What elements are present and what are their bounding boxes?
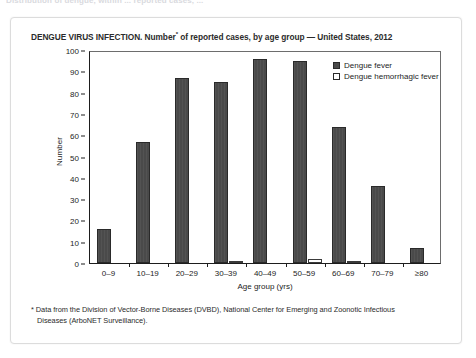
y-axis-tick-label: 60	[70, 132, 79, 141]
x-axis-tick-label: 70–79	[371, 269, 393, 278]
bar-group	[246, 52, 285, 263]
bar-dengue-fever	[253, 59, 267, 263]
y-axis-tick-mark	[81, 114, 85, 115]
bar-dengue-fever	[371, 186, 385, 263]
x-axis-tick-label: 30–39	[215, 269, 237, 278]
legend-swatch-dengue-hemorrhagic-fever-icon	[333, 73, 340, 80]
bar-group	[364, 52, 403, 263]
x-axis-tick-label: 50–59	[293, 269, 315, 278]
y-axis-tick-label: 30	[70, 196, 79, 205]
bar-dengue-fever	[214, 82, 228, 263]
bar-group	[325, 52, 364, 263]
bar-dengue-fever	[410, 248, 424, 263]
cut-off-header-text: Distribution of dengue, within ... repor…	[6, 0, 326, 8]
y-axis-tick-mark	[81, 136, 85, 137]
x-axis-tick-mark	[364, 263, 365, 267]
plot-area: Number 1009080706050403020100 0–910–1920…	[31, 51, 446, 291]
y-axis-tick-mark	[81, 157, 85, 158]
x-axis-tick-label: ≥80	[415, 269, 428, 278]
y-axis-tick-mark	[81, 178, 85, 179]
y-axis-tick-label: 40	[70, 174, 79, 183]
bars-layer	[90, 52, 440, 263]
y-axis-tick-mark	[81, 242, 85, 243]
legend-label-dengue-hemorrhagic-fever: Dengue hemorrhagic fever	[344, 72, 439, 81]
y-axis-ticks: 1009080706050403020100	[55, 51, 85, 264]
x-axis-tick-mark	[286, 263, 287, 267]
legend-label-dengue-fever: Dengue fever	[344, 61, 392, 70]
bar-group	[403, 52, 442, 263]
legend-swatch-dengue-fever-icon	[333, 62, 340, 69]
x-axis-title: Age group (yrs)	[89, 282, 441, 291]
bar-dengue-fever	[97, 229, 111, 263]
y-axis-tick-mark	[81, 93, 85, 94]
chart-title-suffix: of reported cases, by age group — United…	[178, 32, 392, 42]
bar-group	[207, 52, 246, 263]
x-axis-tick-mark	[168, 263, 169, 267]
y-axis-tick-label: 20	[70, 217, 79, 226]
bar-dengue-fever	[332, 127, 346, 263]
bar-dengue-fever	[175, 78, 189, 263]
y-axis-tick-mark	[81, 221, 85, 222]
y-axis-tick-label: 90	[70, 68, 79, 77]
y-axis-tick-label: 80	[70, 89, 79, 98]
chart-title-prefix: DENGUE VIRUS INFECTION. Number	[31, 32, 176, 42]
x-axis-tick-mark	[246, 263, 247, 267]
y-axis-tick-mark	[81, 72, 85, 73]
bar-group	[286, 52, 325, 263]
x-axis-tick-mark	[129, 263, 130, 267]
x-axis-tick-label: 10–19	[137, 269, 159, 278]
y-axis-tick-mark	[81, 200, 85, 201]
y-axis-tick-label: 0	[75, 260, 79, 269]
bar-group	[90, 52, 129, 263]
bar-dengue-fever	[293, 61, 307, 263]
figure-panel: DENGUE VIRUS INFECTION. Number* of repor…	[10, 17, 462, 344]
x-axis-tick-mark	[403, 263, 404, 267]
y-axis-tick-label: 100	[66, 47, 79, 56]
x-axis-tick-label: 20–29	[176, 269, 198, 278]
bar-group	[168, 52, 207, 263]
y-axis-tick-label: 70	[70, 110, 79, 119]
legend-item-dengue-hemorrhagic-fever: Dengue hemorrhagic fever	[333, 72, 439, 81]
bar-dengue-fever	[136, 142, 150, 263]
footnote-line-1: * Data from the Division of Vector-Borne…	[31, 305, 395, 314]
bar-dengue-hemorrhagic-fever	[347, 261, 361, 263]
chart-legend: Dengue fever Dengue hemorrhagic fever	[333, 61, 439, 83]
bar-group	[129, 52, 168, 263]
y-axis-tick-mark	[81, 51, 85, 52]
chart-title: DENGUE VIRUS INFECTION. Number* of repor…	[31, 31, 449, 42]
figure-footnote: * Data from the Division of Vector-Borne…	[31, 305, 449, 326]
y-axis-tick-label: 50	[70, 153, 79, 162]
x-axis-tick-label: 40–49	[254, 269, 276, 278]
y-axis-tick-label: 10	[70, 238, 79, 247]
x-axis-tick-label: 0–9	[102, 269, 115, 278]
footnote-line-2: Diseases (ArboNET Surveillance).	[31, 316, 449, 327]
x-axis-tick-mark	[207, 263, 208, 267]
bar-dengue-hemorrhagic-fever	[308, 259, 322, 263]
x-axis-tick-mark	[325, 263, 326, 267]
bar-dengue-hemorrhagic-fever	[229, 261, 243, 263]
y-axis-tick-mark	[81, 264, 85, 265]
x-axis-tick-label: 60–69	[332, 269, 354, 278]
legend-item-dengue-fever: Dengue fever	[333, 61, 439, 70]
x-axis-tick-labels: 0–910–1920–2930–3940–4950–5960–6970–79≥8…	[89, 269, 441, 283]
